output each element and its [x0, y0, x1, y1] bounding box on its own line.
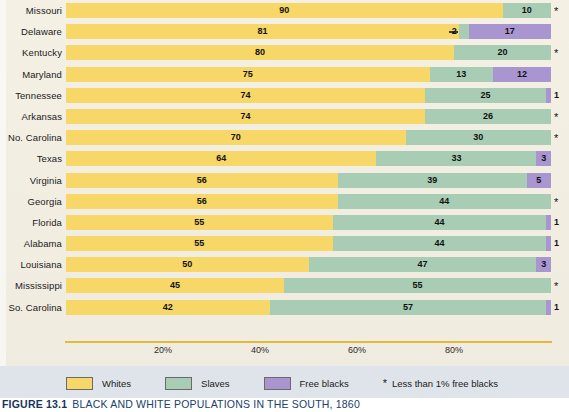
row-state-label: Florida: [0, 215, 62, 230]
row-trailing-value: 1: [554, 215, 569, 230]
legend-swatch-free-blacks: [264, 377, 291, 390]
segment-value-label: 12: [493, 67, 551, 82]
row-state-label: Virginia: [0, 173, 62, 188]
segment-whites: 55: [66, 215, 333, 230]
bar-row: Mississippi4555*: [0, 275, 569, 296]
stacked-bar: 81217: [66, 24, 551, 39]
chart-plot-area: Missouri9010*Delaware81217Kentucky8020*M…: [0, 0, 569, 366]
legend-footnote: *Less than 1% free blacks: [383, 378, 498, 389]
segment-value-label: 64: [66, 151, 376, 166]
segment-value-label: 17: [469, 24, 551, 39]
segment-value-label: 70: [66, 130, 406, 145]
row-footnote-asterisk: *: [554, 45, 569, 60]
figure-caption: FIGURE 13.1BLACK AND WHITE POPULATIONS I…: [0, 398, 569, 412]
bar-row: Virginia56395: [0, 170, 569, 191]
segment-whites: 74: [66, 109, 425, 124]
row-state-label: Maryland: [0, 67, 62, 82]
segment-value-label: 55: [284, 278, 551, 293]
segment-free-blacks: 5: [527, 173, 551, 188]
bar-row: No. Carolina7030*: [0, 127, 569, 148]
figure-container: Missouri9010*Delaware81217Kentucky8020*M…: [0, 0, 569, 412]
segment-slaves: 30: [406, 130, 552, 145]
x-tick-label: 20%: [154, 345, 172, 355]
stacked-bar: 7030: [66, 130, 551, 145]
bar-row: Arkansas7426*: [0, 106, 569, 127]
state-name: Mississippi: [0, 278, 62, 293]
x-tick-label: 80%: [445, 345, 463, 355]
segment-value-label: 80: [66, 45, 454, 60]
row-state-label: Arkansas: [0, 109, 62, 124]
segment-value-label: 57: [270, 300, 546, 315]
segment-whites: 50: [66, 257, 309, 272]
figure-title: BLACK AND WHITE POPULATIONS IN THE SOUTH…: [72, 398, 360, 410]
state-name: Texas: [0, 151, 62, 166]
row-state-label: No. Carolina: [0, 130, 62, 145]
segment-value-label: 44: [338, 194, 551, 209]
segment-value-label: 20: [454, 45, 551, 60]
asterisk-icon: *: [383, 378, 387, 388]
stacked-bar: 7426: [66, 109, 551, 124]
segment-free-blacks: 3: [536, 151, 551, 166]
segment-value-label: 33: [376, 151, 536, 166]
bar-row: Delaware81217: [0, 21, 569, 42]
state-name: Alabama: [0, 236, 62, 251]
segment-value-label: 75: [66, 67, 430, 82]
row-trailing-value: 1: [554, 236, 569, 251]
segment-value-label: 81: [66, 24, 459, 39]
segment-slaves: 44: [338, 194, 551, 209]
stacked-bar: 64333: [66, 151, 551, 166]
segment-value-label: 55: [66, 236, 333, 251]
bar-row: Tennessee74251: [0, 85, 569, 106]
segment-free-blacks: [546, 300, 551, 315]
segment-slaves: 20: [454, 45, 551, 60]
stacked-bar: 5644: [66, 194, 551, 209]
segment-whites: 64: [66, 151, 376, 166]
bar-row: Alabama55441: [0, 233, 569, 254]
segment-value-label: 47: [309, 257, 537, 272]
state-name: Kentucky: [0, 45, 62, 60]
segment-value-label: 26: [425, 109, 551, 124]
segment-whites: 74: [66, 88, 425, 103]
row-state-label: Georgia: [0, 194, 62, 209]
row-state-label: Delaware: [0, 24, 62, 39]
row-footnote-asterisk: *: [554, 130, 569, 145]
segment-value-label: 44: [333, 236, 546, 251]
segment-whites: 81: [66, 24, 459, 39]
row-footnote-asterisk: *: [554, 194, 569, 209]
segment-free-blacks: [546, 236, 551, 251]
segment-whites: 90: [66, 3, 503, 18]
segment-whites: 45: [66, 278, 284, 293]
x-axis: 20%40%60%80%: [66, 341, 551, 363]
legend-label: Slaves: [201, 378, 230, 389]
segment-free-blacks: [546, 88, 551, 103]
segment-value-label: 3: [536, 257, 551, 272]
state-name: Georgia: [0, 194, 62, 209]
segment-whites: 56: [66, 173, 338, 188]
state-name: Tennessee: [0, 88, 62, 103]
bar-row: So. Carolina42571: [0, 297, 569, 318]
segment-slaves: 39: [338, 173, 527, 188]
state-name: Florida: [0, 215, 62, 230]
bar-row: Texas64333: [0, 148, 569, 169]
segment-free-blacks: 17: [469, 24, 551, 39]
figure-number: FIGURE 13.1: [2, 398, 67, 410]
legend-items: WhitesSlavesFree blacks*Less than 1% fre…: [66, 375, 498, 391]
row-state-label: Louisiana: [0, 257, 62, 272]
segment-slaves: 44: [333, 236, 546, 251]
segment-slaves: 55: [284, 278, 551, 293]
row-state-label: Missouri: [0, 3, 62, 18]
bar-row: Georgia5644*: [0, 191, 569, 212]
stacked-bar: 8020: [66, 45, 551, 60]
row-state-label: Tennessee: [0, 88, 62, 103]
stacked-bar: 4257: [66, 300, 551, 315]
row-footnote-asterisk: *: [554, 278, 569, 293]
chart-legend: WhitesSlavesFree blacks*Less than 1% fre…: [0, 366, 569, 398]
legend-item-slaves: Slaves: [165, 377, 230, 390]
segment-slaves: 57: [270, 300, 546, 315]
segment-slaves: 33: [376, 151, 536, 166]
stacked-bar: 50473: [66, 257, 551, 272]
segment-whites: 75: [66, 67, 430, 82]
segment-whites: 80: [66, 45, 454, 60]
segment-value-label: 74: [66, 109, 425, 124]
segment-value-label: 56: [66, 173, 338, 188]
